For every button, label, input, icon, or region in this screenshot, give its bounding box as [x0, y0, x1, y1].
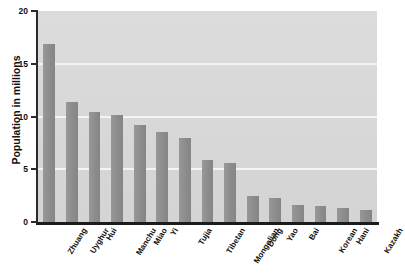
x-axis-tick-label: Zhuang: [67, 227, 89, 256]
plot-area: [38, 11, 377, 222]
bar: [337, 208, 349, 222]
bar: [315, 206, 327, 222]
bar: [360, 210, 372, 222]
bar: [43, 44, 55, 222]
bar: [66, 102, 78, 222]
y-axis-tick-label: 20: [0, 7, 28, 15]
y-axis-title: Population in millions: [10, 10, 22, 210]
bar: [224, 163, 236, 222]
x-axis-tick-label: Yao: [286, 227, 300, 243]
x-axis-line: [36, 222, 379, 225]
y-axis-tick: [31, 10, 37, 12]
bar: [247, 196, 259, 222]
y-axis-tick: [31, 168, 37, 170]
bar: [269, 198, 281, 222]
x-axis-tick-label: Tujia: [197, 227, 213, 247]
bar: [111, 115, 123, 222]
x-axis-tick-label: Tibetan: [225, 227, 247, 255]
y-axis-tick: [31, 63, 37, 65]
y-axis-tick: [31, 116, 37, 118]
x-axis-tick-label: Yi: [170, 227, 181, 237]
x-axis-tick-label: Dong: [266, 227, 284, 249]
y-axis-tick-label: 5: [0, 165, 28, 173]
gridline: [38, 63, 377, 65]
bar: [89, 112, 101, 222]
bar: [179, 138, 191, 222]
bar: [134, 125, 146, 222]
bar: [202, 160, 214, 222]
y-axis-tick-label: 0: [0, 218, 28, 226]
y-axis-tick-label: 15: [0, 60, 28, 68]
bar: [156, 132, 168, 222]
x-axis-tick-label: Kazakh: [383, 227, 405, 255]
x-axis-tick-label: Bai: [308, 227, 321, 242]
y-axis-tick-label: 10: [0, 113, 28, 121]
y-axis-tick: [31, 221, 37, 223]
bar: [292, 205, 304, 222]
chart-title: [0, 0, 384, 6]
